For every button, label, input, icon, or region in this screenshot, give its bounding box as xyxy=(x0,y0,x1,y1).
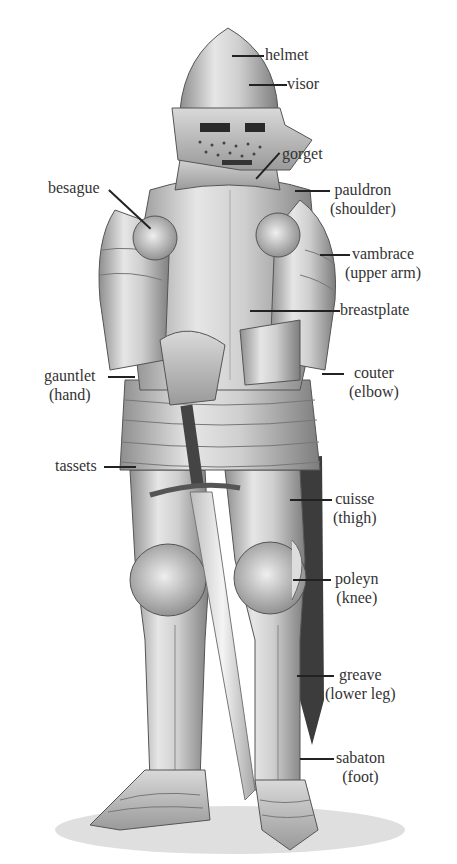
label-poleyn: poleyn (knee) xyxy=(335,569,379,607)
gauntlets xyxy=(160,331,225,405)
leader-couter xyxy=(322,373,344,375)
label-sabaton: sabaton (foot) xyxy=(336,748,385,786)
label-cuisse: cuisse (thigh) xyxy=(333,489,377,527)
label-gorget: gorget xyxy=(282,144,323,163)
label-tassets: tassets xyxy=(55,456,97,475)
leader-helmet xyxy=(232,55,264,57)
leader-poleyn xyxy=(293,579,331,581)
label-besague: besague xyxy=(48,178,100,197)
leader-gauntlet xyxy=(108,376,135,378)
label-pauldron: pauldron (shoulder) xyxy=(330,180,396,218)
leader-cuisse xyxy=(290,499,332,501)
left-sabaton xyxy=(90,770,210,830)
leader-sabaton xyxy=(300,758,334,760)
vambrace-right-forearm xyxy=(240,320,300,385)
left-knee xyxy=(130,544,206,616)
label-gauntlet: gauntlet (hand) xyxy=(44,366,96,404)
helmet xyxy=(180,28,278,110)
leader-breastplate xyxy=(250,310,340,312)
leader-visor xyxy=(249,84,287,86)
leader-pauldron xyxy=(295,190,330,192)
label-breastplate: breastplate xyxy=(340,300,409,319)
label-visor: visor xyxy=(287,74,319,93)
label-couter: couter (elbow) xyxy=(349,363,399,401)
label-helmet: helmet xyxy=(265,45,309,64)
leader-tassets xyxy=(104,466,136,468)
armour-illustration xyxy=(0,0,457,864)
left-besague xyxy=(133,216,177,260)
label-greave: greave (lower leg) xyxy=(325,665,396,703)
right-besague xyxy=(256,213,300,257)
label-vambrace: vambrace (upper arm) xyxy=(345,244,421,282)
